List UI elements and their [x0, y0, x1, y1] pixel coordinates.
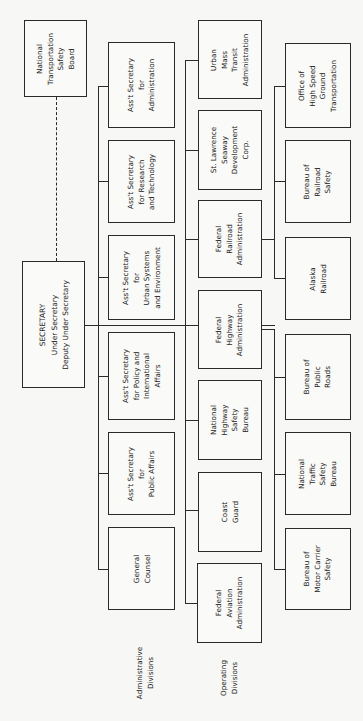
box-line: Federal: [214, 213, 225, 266]
box-line: Urban: [209, 33, 220, 86]
asst-sec-urban-systems-box: Ass't Secretary for Urban Systems and En…: [108, 235, 175, 320]
operating-divisions-label: Operating Divisions: [212, 655, 246, 701]
under-secretary: Under Secretary: [48, 280, 60, 370]
deputy-under-secretary: Deputy Under Secretary: [59, 280, 71, 370]
administrative-divisions-label: Administrative Divisions: [128, 640, 162, 706]
asst-sec-research-technology-box: Ass't Secretary for Research and Technol…: [108, 140, 175, 223]
fhwa-box: Federal Highway Administration: [198, 290, 262, 369]
box-line: Railroad: [318, 264, 329, 293]
box-line: Affairs: [152, 349, 163, 403]
label-line: Divisions: [145, 647, 156, 699]
admin-spine: [98, 86, 99, 570]
box-line: Counsel: [142, 554, 153, 583]
box-line: Public: [313, 360, 324, 395]
operating-branch: [185, 510, 198, 511]
fra-connector: [262, 239, 274, 240]
box-line: Traffic: [308, 459, 319, 489]
secretary-box: SECRETARY Under Secretary Deputy Under S…: [22, 261, 85, 388]
box-line: and Environment: [152, 247, 163, 309]
box-line: Bureau of: [302, 360, 313, 395]
fra-sub-branch: [274, 181, 285, 182]
box-line: Railroad: [225, 213, 236, 266]
bureau-public-roads-box: Bureau of Public Roads: [285, 334, 351, 420]
asst-sec-public-affairs-box: Ass't Secretary for Public Affairs: [108, 432, 175, 515]
box-line: Seaway: [220, 126, 231, 174]
label-line: Administrative: [135, 647, 146, 699]
box-line: for Policy and: [131, 349, 142, 403]
box-line: Railroad: [313, 164, 324, 199]
box-line: Office of: [297, 60, 308, 112]
faa-box: Federal Aviation Administration: [197, 563, 262, 643]
alaska-railroad-box: Alaska Railroad: [285, 237, 351, 320]
box-line: Safety: [56, 33, 67, 85]
box-line: Bureau: [329, 459, 340, 489]
asst-sec-administration-box: Ass't Secretary for Administration: [108, 42, 175, 128]
secretary-title: SECRETARY: [36, 280, 48, 370]
box-line: Urban Systems: [142, 247, 153, 309]
national-traffic-safety-bureau-box: National Traffic Safety Bureau: [285, 432, 351, 515]
box-line: Administration: [235, 577, 246, 630]
box-line: Federal: [214, 303, 225, 356]
box-line: and Technology: [147, 153, 158, 209]
bureau-railroad-safety-box: Bureau of Railroad Safety: [285, 140, 351, 223]
box-line: Roads: [323, 360, 334, 395]
box-line: Transportation: [329, 60, 340, 112]
box-line: Ass't Secretary: [126, 58, 137, 112]
box-line: for: [136, 58, 147, 112]
box-line: Safety: [323, 164, 334, 199]
box-line: Administration: [235, 303, 246, 356]
box-line: Development: [230, 126, 241, 174]
box-line: Highway: [220, 404, 231, 435]
box-line: Corp.: [241, 126, 252, 174]
ntsb-box: National Transportation Safety Board: [24, 20, 87, 97]
fhwa-sub-spine: [274, 329, 275, 570]
box-line: Federal: [214, 577, 225, 630]
box-line: Public Affairs: [147, 446, 158, 500]
box-line: Bureau: [241, 404, 252, 435]
operating-spine: [185, 60, 186, 604]
box-line: Safety: [318, 459, 329, 489]
box-line: Ground: [318, 60, 329, 112]
umta-box: Urban Mass Transit Administration: [198, 20, 262, 99]
box-line: National: [297, 459, 308, 489]
box-line: General: [131, 554, 142, 583]
operating-branch: [185, 150, 198, 151]
box-line: St. Lawrence: [209, 126, 220, 174]
general-counsel-box: General Counsel: [108, 527, 175, 610]
box-line: Administration: [241, 33, 252, 86]
box-line: Safety: [323, 545, 334, 593]
operating-branch: [185, 60, 198, 61]
fra-sub-branch: [274, 278, 285, 279]
operating-branch: [185, 239, 198, 240]
box-line: Motor Carrier: [313, 545, 324, 593]
label-line: Divisions: [229, 660, 240, 696]
admin-branch: [98, 473, 108, 474]
admin-branch: [98, 376, 108, 377]
box-line: National: [35, 33, 46, 85]
box-line: International: [142, 349, 153, 403]
box-line: for: [131, 247, 142, 309]
box-line: Administration: [147, 58, 158, 112]
box-line: Bureau of: [302, 545, 313, 593]
fra-box: Federal Railroad Administration: [198, 200, 262, 278]
box-line: Transit: [230, 33, 241, 86]
box-line: Ass't Secretary: [126, 153, 137, 209]
asst-sec-policy-intl-box: Ass't Secretary for Policy and Internati…: [108, 332, 175, 420]
high-speed-ground-transport-box: Office of High Speed Ground Transportati…: [285, 43, 351, 128]
box-line: Alaska: [308, 264, 319, 293]
box-line: Bureau of: [302, 164, 313, 199]
admin-branch: [98, 569, 108, 570]
box-line: Highway: [225, 303, 236, 356]
admin-branch: [98, 277, 108, 278]
fra-sub-branch: [274, 86, 285, 87]
box-line: Ass't Secretary: [126, 446, 137, 500]
box-line: Coast: [220, 501, 231, 523]
box-line: Guard: [230, 501, 241, 523]
box-line: National: [209, 404, 220, 435]
operating-branch: [185, 420, 198, 421]
box-line: Transportation: [45, 33, 56, 85]
box-line: Aviation: [224, 577, 235, 630]
admin-branch: [98, 86, 108, 87]
nhsb-box: National Highway Safety Bureau: [198, 380, 262, 460]
box-line: Board: [66, 33, 77, 85]
